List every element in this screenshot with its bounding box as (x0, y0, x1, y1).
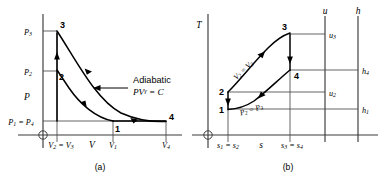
panel-b-group: T u h u3 u2 h4 h1 s1 = s2 s3 = s4 s 3 4 … (192, 6, 378, 172)
panel-a-ytick-p3: P3 (23, 28, 32, 37)
panel-a-xtick-v1: V1 (109, 141, 117, 150)
panel-b-xtick-s3s4: s3 = s4 (281, 141, 303, 150)
panel-a-state-2: 2 (59, 72, 64, 82)
panel-b-state-2: 2 (219, 87, 224, 97)
panel-b-y-axis-label: T (196, 20, 202, 30)
figure-root: P3 P2 P1 = P4 P V2 = V3 V1 V4 V 3 2 1 4 … (0, 0, 384, 177)
panel-a-annotation-title: Adiabatic (133, 75, 171, 85)
panel-a-group: P3 P2 P1 = P4 P V2 = V3 V1 V4 V 3 2 1 4 … (7, 14, 182, 172)
panel-a-xtick-v4: V4 (162, 141, 170, 150)
panel-a-annotation-equation: PVγ = C (132, 87, 165, 97)
panel-b-state-3: 3 (282, 22, 287, 32)
panel-b-arrow-3-4 (287, 57, 293, 65)
thermodynamic-cycle-diagram: P3 P2 P1 = P4 P V2 = V3 V1 V4 V 3 2 1 4 … (0, 0, 384, 177)
panel-a-state-1: 1 (115, 124, 120, 134)
panel-a-x-axis-label: V (89, 140, 96, 150)
panel-b-utick-u3: u3 (329, 31, 336, 40)
panel-b-curve-label-p2p3: P2 = P3 (238, 102, 265, 118)
panel-b-htick-h4: h4 (362, 67, 369, 76)
panel-a-arrow-3-4 (85, 69, 92, 75)
panel-a-xtick-v2v3: V2 = V3 (48, 141, 74, 150)
panel-b-u-axis-label: u (323, 6, 328, 16)
panel-a-caption: (a) (95, 162, 106, 172)
panel-b-process-2-3-isochoric (228, 33, 290, 92)
panel-b-curve-label-v2v3: V2 = V3 (232, 59, 256, 82)
panel-a-state-3: 3 (60, 20, 65, 30)
panel-b-state-1: 1 (219, 105, 224, 115)
panel-a-annotation-arrow (93, 85, 101, 91)
panel-a-ytick-p1p4: P1 = P4 (7, 118, 34, 127)
panel-a-arrow-2-3 (54, 52, 60, 60)
panel-b-state-4: 4 (294, 71, 299, 81)
panel-b-htick-h1: h1 (362, 106, 369, 115)
panel-b-x-axis-label: s (259, 140, 263, 150)
panel-b-utick-u2: u2 (329, 89, 336, 98)
panel-a-process-1-2-adiabatic (57, 70, 113, 121)
panel-b-arrow-1-2 (225, 99, 231, 106)
panel-b-h-axis-label: h (356, 6, 361, 16)
panel-a-ytick-p2: P2 (23, 68, 32, 77)
panel-a-state-4: 4 (169, 112, 174, 122)
panel-a-y-axis-label: P (23, 92, 30, 102)
panel-b-xtick-s1s2: s1 = s2 (217, 141, 239, 150)
panel-b-caption: (b) (283, 162, 294, 172)
panel-a-arrow-1-2 (80, 100, 87, 106)
